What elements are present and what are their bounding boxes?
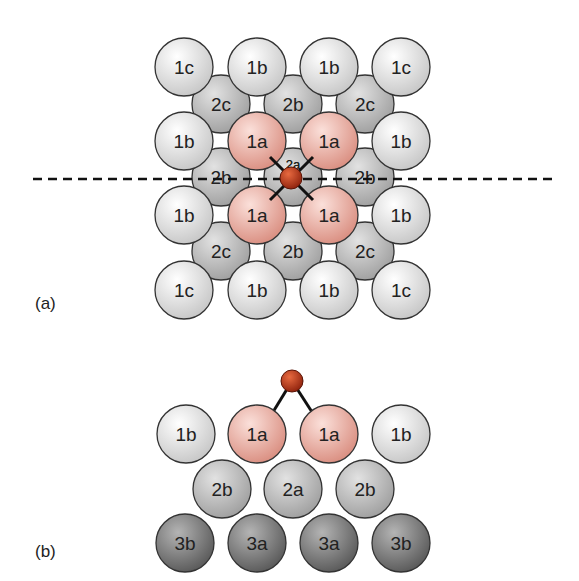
atom-label: 1c — [391, 57, 411, 78]
atom-label: 2b — [210, 167, 231, 188]
atom-layer1-1b: 1b — [155, 186, 213, 244]
atom-label: 1b — [390, 424, 411, 445]
panel-b-side-view: 3b3a3a3b2b2a2b1b1a1a1b — [156, 370, 430, 572]
atom-label: 1b — [246, 57, 267, 78]
atom-layer1-1a: 1a — [228, 405, 286, 463]
atom-layer1-1a: 1a — [228, 112, 286, 170]
panel-b-label: (b) — [35, 542, 56, 562]
atom-label: 1a — [246, 205, 268, 226]
panel-a-top-view: 2c2b2c2b2a2b2c2b2c1c1b1b1c1b1a1a1b1b1a1a… — [33, 38, 553, 319]
atom-layer3-3a: 3a — [228, 514, 286, 572]
atom-label: 1b — [318, 57, 339, 78]
atom-layer3-3a: 3a — [300, 514, 358, 572]
atom-label: 1a — [318, 424, 340, 445]
atom-layer1-1c: 1c — [372, 38, 430, 96]
atom-label: 1c — [174, 57, 194, 78]
adsorbate-atom — [280, 167, 302, 189]
atom-label: 1a — [318, 131, 340, 152]
atom-label: 1b — [246, 280, 267, 301]
atom-label: 1b — [175, 424, 196, 445]
atom-label: 1c — [391, 280, 411, 301]
atom-layer1-1c: 1c — [372, 261, 430, 319]
atom-label: 3a — [318, 533, 340, 554]
atom-label: 2c — [211, 241, 231, 262]
atom-label: 2c — [211, 94, 231, 115]
atom-label: 1b — [390, 131, 411, 152]
atom-label: 1a — [246, 131, 268, 152]
atom-layer1-1b: 1b — [300, 261, 358, 319]
atom-label: 1b — [390, 205, 411, 226]
panel-a-label: (a) — [35, 294, 56, 314]
adsorbate-atom — [281, 370, 303, 392]
atom-layer1-1c: 1c — [155, 38, 213, 96]
atom-layer1-1b: 1b — [228, 261, 286, 319]
atom-label: 1a — [246, 424, 268, 445]
atom-layer2-2b: 2b — [336, 460, 394, 518]
atom-label: 1c — [174, 280, 194, 301]
atom-label: 2b — [211, 479, 232, 500]
atom-label: 1b — [173, 205, 194, 226]
atom-layer1-1b: 1b — [228, 38, 286, 96]
atom-label: 2b — [354, 479, 375, 500]
surface-adsorption-diagram: 2c2b2c2b2a2b2c2b2c1c1b1b1c1b1a1a1b1b1a1a… — [0, 0, 579, 581]
atom-label: 1b — [173, 131, 194, 152]
atom-layer3-3b: 3b — [372, 514, 430, 572]
atom-layer1-1b: 1b — [372, 405, 430, 463]
atom-label: 2c — [355, 94, 375, 115]
atom-layer1-1a: 1a — [300, 405, 358, 463]
atom-layer1-1b: 1b — [300, 38, 358, 96]
atom-layer3-3b: 3b — [156, 514, 214, 572]
atom-label: 1a — [318, 205, 340, 226]
atom-label: 3b — [390, 533, 411, 554]
atom-label: 2a — [282, 479, 304, 500]
atom-layer2-2b: 2b — [193, 460, 251, 518]
atom-layer1-1b: 1b — [155, 112, 213, 170]
atom-layer1-1b: 1b — [372, 112, 430, 170]
atom-label: 3b — [174, 533, 195, 554]
atom-label: 2b — [282, 241, 303, 262]
atom-layer1-1b: 1b — [157, 405, 215, 463]
atom-label: 3a — [246, 533, 268, 554]
atom-label: 2b — [282, 94, 303, 115]
atom-layer1-1c: 1c — [155, 261, 213, 319]
atom-label: 1b — [318, 280, 339, 301]
atom-layer2-2a: 2a — [264, 460, 322, 518]
atom-layer1-1b: 1b — [372, 186, 430, 244]
atom-label: 2b — [354, 167, 375, 188]
atom-label: 2c — [355, 241, 375, 262]
